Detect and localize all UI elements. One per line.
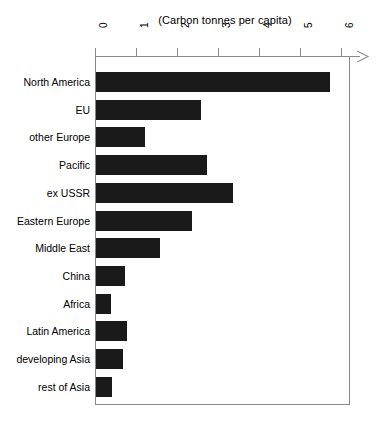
x-axis-tick-label: 2 xyxy=(181,22,191,28)
category-label: North America xyxy=(0,77,90,88)
x-axis-tick-label: 6 xyxy=(345,22,355,28)
x-axis-tick-label: 0 xyxy=(99,22,109,28)
carbon-emissions-bar-chart: (Carbon tonnes per capita) 0123456 North… xyxy=(0,0,388,431)
bar xyxy=(96,266,125,286)
category-label: EU xyxy=(0,105,90,116)
bar xyxy=(96,183,233,203)
bar xyxy=(96,321,127,341)
bar xyxy=(96,211,192,231)
bar xyxy=(96,155,207,175)
bar xyxy=(96,238,160,258)
bar xyxy=(96,127,145,147)
x-axis-tick-mark xyxy=(95,48,96,56)
category-label: rest of Asia xyxy=(0,382,90,393)
x-axis-tick-mark xyxy=(259,48,260,56)
x-axis-tick-label: 3 xyxy=(222,22,232,28)
category-label: Eastern Europe xyxy=(0,216,90,227)
x-axis-tick-mark xyxy=(300,48,301,56)
category-label: other Europe xyxy=(0,132,90,143)
category-label: China xyxy=(0,271,90,282)
bar xyxy=(96,72,330,92)
x-axis-tick-mark xyxy=(341,48,342,56)
x-axis-tick-mark xyxy=(136,48,137,56)
x-axis-tick-label: 5 xyxy=(304,22,314,28)
x-axis-tick-mark xyxy=(177,48,178,56)
x-axis-tick-label: 1 xyxy=(140,22,150,28)
category-label: Middle East xyxy=(0,243,90,254)
x-axis-arrow-icon xyxy=(357,50,370,63)
category-label: developing Asia xyxy=(0,354,90,365)
bar xyxy=(96,100,201,120)
category-label: Pacific xyxy=(0,160,90,171)
bar xyxy=(96,349,123,369)
x-axis-tick-mark xyxy=(218,48,219,56)
bar xyxy=(96,377,112,397)
x-axis-tick-label: 4 xyxy=(263,22,273,28)
category-label: Latin America xyxy=(0,326,90,337)
bar xyxy=(96,294,111,314)
category-label: ex USSR xyxy=(0,188,90,199)
category-label: Africa xyxy=(0,299,90,310)
